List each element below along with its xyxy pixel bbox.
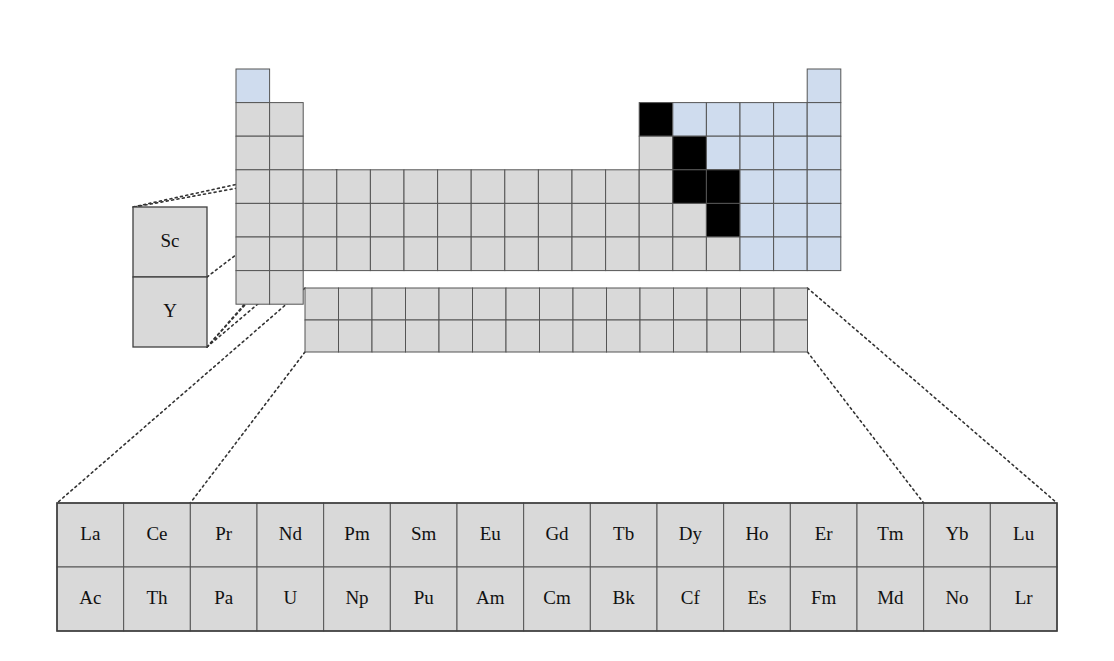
fblock-strip-cell-r2-c14[interactable] <box>741 320 775 352</box>
main-periodic-grid[interactable] <box>236 69 841 304</box>
periodic-cell-g2-p6[interactable] <box>270 237 304 271</box>
periodic-cell-g4-p5[interactable] <box>337 203 371 237</box>
periodic-cell-g16-p6[interactable] <box>740 237 774 271</box>
fblock-strip-cell-r2-c8[interactable] <box>540 320 574 352</box>
periodic-cell-g5-p5[interactable] <box>370 203 404 237</box>
fblock-strip-cell-r1-c14[interactable] <box>741 288 775 320</box>
fblock-strip-cell-r2-c12[interactable] <box>674 320 708 352</box>
periodic-cell-g8-p6[interactable] <box>471 237 505 271</box>
periodic-cell-g18-p2[interactable] <box>807 103 841 137</box>
fblock-strip-cell-r1-c5[interactable] <box>439 288 473 320</box>
periodic-cell-g1-p6[interactable] <box>236 237 270 271</box>
fblock-strip-cell-r2-c13[interactable] <box>707 320 741 352</box>
periodic-cell-g18-p4[interactable] <box>807 170 841 204</box>
periodic-cell-g14-p2[interactable] <box>673 103 707 137</box>
periodic-cell-g11-p6[interactable] <box>572 237 606 271</box>
periodic-cell-g17-p4[interactable] <box>774 170 808 204</box>
periodic-cell-g15-p4[interactable] <box>706 170 740 204</box>
periodic-cell-g18-p5[interactable] <box>807 203 841 237</box>
fblock-strip-cell-r1-c11[interactable] <box>640 288 674 320</box>
periodic-cell-g6-p5[interactable] <box>404 203 438 237</box>
periodic-cell-g10-p4[interactable] <box>538 170 572 204</box>
periodic-cell-g9-p4[interactable] <box>505 170 539 204</box>
periodic-cell-g8-p4[interactable] <box>471 170 505 204</box>
fblock-strip-cell-r2-c10[interactable] <box>607 320 641 352</box>
periodic-cell-g14-p6[interactable] <box>673 237 707 271</box>
fblock-strip-cell-r1-c10[interactable] <box>607 288 641 320</box>
periodic-cell-g17-p6[interactable] <box>774 237 808 271</box>
periodic-cell-g2-p2[interactable] <box>270 103 304 137</box>
periodic-cell-g3-p4[interactable] <box>303 170 337 204</box>
periodic-cell-g11-p5[interactable] <box>572 203 606 237</box>
fblock-strip-cell-r1-c1[interactable] <box>305 288 339 320</box>
periodic-cell-g12-p4[interactable] <box>606 170 640 204</box>
periodic-cell-g1-p3[interactable] <box>236 136 270 170</box>
periodic-cell-g12-p5[interactable] <box>606 203 640 237</box>
periodic-cell-g4-p4[interactable] <box>337 170 371 204</box>
periodic-cell-g1-p2[interactable] <box>236 103 270 137</box>
fblock-strip-cell-r1-c15[interactable] <box>774 288 808 320</box>
periodic-cell-g16-p4[interactable] <box>740 170 774 204</box>
periodic-cell-g11-p4[interactable] <box>572 170 606 204</box>
periodic-cell-g13-p2[interactable] <box>639 103 673 137</box>
periodic-cell-g7-p5[interactable] <box>438 203 472 237</box>
periodic-cell-g4-p6[interactable] <box>337 237 371 271</box>
periodic-cell-g18-p6[interactable] <box>807 237 841 271</box>
periodic-cell-g15-p6[interactable] <box>706 237 740 271</box>
periodic-cell-g1-p5[interactable] <box>236 203 270 237</box>
periodic-cell-g13-p4[interactable] <box>639 170 673 204</box>
periodic-cell-g10-p6[interactable] <box>538 237 572 271</box>
periodic-cell-g14-p3[interactable] <box>673 136 707 170</box>
periodic-cell-g5-p4[interactable] <box>370 170 404 204</box>
periodic-cell-g6-p4[interactable] <box>404 170 438 204</box>
periodic-cell-g9-p5[interactable] <box>505 203 539 237</box>
fblock-strip-cell-r1-c8[interactable] <box>540 288 574 320</box>
fblock-strip-cell-r1-c12[interactable] <box>674 288 708 320</box>
periodic-cell-g13-p6[interactable] <box>639 237 673 271</box>
fblock-strip-cell-r2-c9[interactable] <box>573 320 607 352</box>
fblock-expanded-table[interactable]: LaCePrNdPmSmEuGdTbDyHoErTmYbLuAcThPaUNpP… <box>57 503 1057 631</box>
periodic-cell-g14-p4[interactable] <box>673 170 707 204</box>
periodic-cell-g1-p1[interactable] <box>236 69 270 103</box>
periodic-cell-g5-p6[interactable] <box>370 237 404 271</box>
fblock-strip-cell-r2-c15[interactable] <box>774 320 808 352</box>
fblock-strip-cell-r1-c7[interactable] <box>506 288 540 320</box>
periodic-cell-g6-p6[interactable] <box>404 237 438 271</box>
periodic-cell-g7-p4[interactable] <box>438 170 472 204</box>
periodic-cell-g7-p6[interactable] <box>438 237 472 271</box>
periodic-cell-g2-p5[interactable] <box>270 203 304 237</box>
fblock-strip-cell-r1-c13[interactable] <box>707 288 741 320</box>
fblock-strip-cell-r2-c7[interactable] <box>506 320 540 352</box>
fblock-strip-cell-r1-c9[interactable] <box>573 288 607 320</box>
fblock-strip[interactable] <box>305 288 808 352</box>
periodic-cell-g10-p5[interactable] <box>538 203 572 237</box>
periodic-cell-g16-p5[interactable] <box>740 203 774 237</box>
periodic-cell-g15-p5[interactable] <box>706 203 740 237</box>
periodic-cell-g16-p3[interactable] <box>740 136 774 170</box>
periodic-cell-g16-p2[interactable] <box>740 103 774 137</box>
periodic-cell-g17-p5[interactable] <box>774 203 808 237</box>
periodic-cell-g14-p5[interactable] <box>673 203 707 237</box>
periodic-cell-g3-p5[interactable] <box>303 203 337 237</box>
periodic-cell-g13-p3[interactable] <box>639 136 673 170</box>
periodic-cell-g8-p5[interactable] <box>471 203 505 237</box>
fblock-strip-cell-r2-c2[interactable] <box>339 320 373 352</box>
periodic-cell-g1-p4[interactable] <box>236 170 270 204</box>
fblock-strip-cell-r2-c3[interactable] <box>372 320 406 352</box>
periodic-cell-g15-p2[interactable] <box>706 103 740 137</box>
periodic-cell-g18-p3[interactable] <box>807 136 841 170</box>
fblock-strip-cell-r1-c6[interactable] <box>473 288 507 320</box>
periodic-cell-g2-p7[interactable] <box>270 271 304 305</box>
fblock-strip-cell-r2-c11[interactable] <box>640 320 674 352</box>
group3-callout[interactable]: ScY <box>133 207 207 347</box>
periodic-cell-g17-p3[interactable] <box>774 136 808 170</box>
fblock-strip-cell-r1-c2[interactable] <box>339 288 373 320</box>
periodic-cell-g15-p3[interactable] <box>706 136 740 170</box>
fblock-strip-cell-r2-c5[interactable] <box>439 320 473 352</box>
fblock-strip-cell-r2-c4[interactable] <box>406 320 440 352</box>
periodic-cell-g2-p4[interactable] <box>270 170 304 204</box>
fblock-strip-cell-r2-c1[interactable] <box>305 320 339 352</box>
fblock-strip-cell-r2-c6[interactable] <box>473 320 507 352</box>
periodic-cell-g13-p5[interactable] <box>639 203 673 237</box>
periodic-cell-g17-p2[interactable] <box>774 103 808 137</box>
